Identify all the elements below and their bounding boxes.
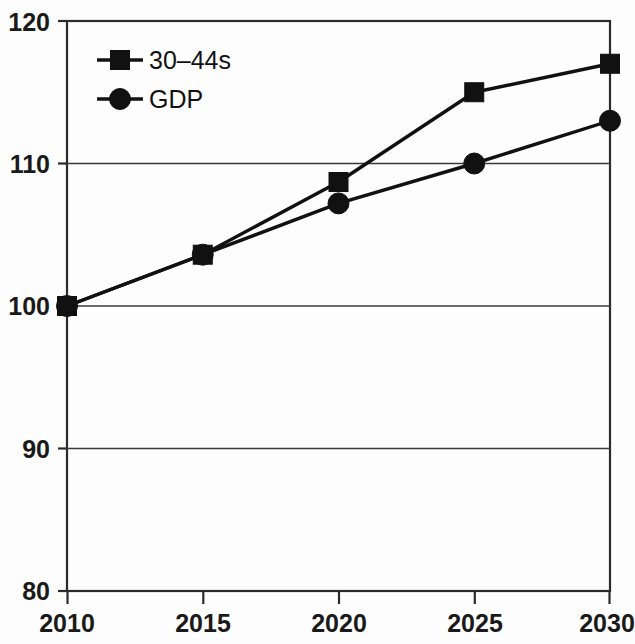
legend-label: GDP: [149, 85, 203, 113]
xtick-label-2020: 2020: [311, 609, 367, 637]
chart-canvas: 120 110 100 90 80 2010 2015 2020 2025 20…: [0, 0, 635, 644]
data-point: [329, 173, 348, 192]
ytick-label-120: 120: [8, 8, 50, 36]
xtick-label-2025: 2025: [447, 609, 503, 637]
legend-marker-circle: [110, 89, 131, 110]
data-point: [192, 244, 213, 265]
ytick-label-110: 110: [10, 150, 50, 178]
chart-legend: 30–44sGDP: [97, 46, 231, 113]
data-point: [328, 193, 349, 214]
ytick-label-100: 100: [8, 292, 50, 320]
ytick-label-90: 90: [22, 435, 50, 463]
xtick-label-2030: 2030: [579, 609, 635, 637]
legend-label: 30–44s: [149, 46, 231, 74]
series-layer: [57, 54, 621, 316]
xtick-label-2010: 2010: [39, 609, 95, 637]
xtick-label-2015: 2015: [175, 609, 231, 637]
data-point: [601, 54, 620, 73]
data-point: [57, 296, 78, 317]
line-chart: 120 110 100 90 80 2010 2015 2020 2025 20…: [0, 0, 635, 644]
ytick-label-80: 80: [22, 577, 50, 605]
legend-marker-square: [111, 51, 130, 70]
data-point: [465, 83, 484, 102]
data-point: [600, 110, 621, 131]
data-point: [464, 153, 485, 174]
